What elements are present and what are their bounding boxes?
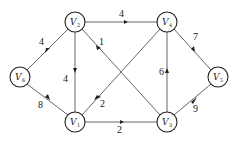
weight-v4-v1: 2: [100, 98, 105, 109]
weight-v2-v4: 4: [119, 8, 124, 19]
arrow-up-icon: [165, 68, 169, 73]
weight-v3-v5: 9: [193, 103, 198, 114]
graph-diagram: 4 4 4 1 8 2 2 6 7 9 V 1 V 2 V 3 V 4 V 5 …: [0, 0, 241, 141]
node-v5: V 5: [208, 67, 228, 87]
weight-v3-v2: 1: [99, 36, 104, 47]
weight-v6-v1: 8: [38, 99, 43, 110]
node-v4: V 4: [157, 12, 177, 32]
weight-v2-v6: 4: [39, 36, 44, 47]
node-subscript: 2: [77, 22, 80, 28]
arrow-down-left-icon: [45, 48, 50, 53]
weight-v4-v5: 7: [193, 31, 198, 42]
node-subscript: 6: [22, 77, 25, 83]
edge-v6-v1: [27, 84, 68, 115]
node-subscript: 1: [77, 122, 80, 128]
arrow-down-right-icon: [191, 46, 195, 52]
node-subscript: 3: [169, 122, 172, 128]
node-v1: V 1: [65, 112, 85, 132]
arrow-right-icon: [124, 20, 128, 24]
node-v3: V 3: [157, 112, 177, 132]
weight-v1-v3: 2: [117, 124, 122, 135]
edges: [27, 22, 211, 122]
weight-v2-v1: 4: [63, 73, 68, 84]
arrow-down-icon: [73, 68, 77, 73]
weight-v3-v4: 6: [159, 66, 164, 77]
node-subscript: 4: [169, 22, 172, 28]
node-v2: V 2: [65, 12, 85, 32]
node-subscript: 5: [220, 77, 223, 83]
node-v6: V 6: [10, 67, 30, 87]
